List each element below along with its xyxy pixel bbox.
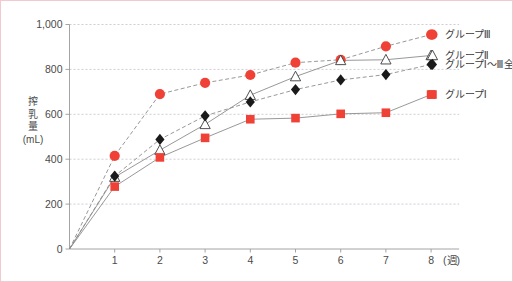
y-axis-title-char-1: 乳 xyxy=(28,108,38,120)
x-axis-unit-label: (週) xyxy=(443,254,460,266)
legend-marker-2 xyxy=(428,59,437,70)
x-tick-label-3: 3 xyxy=(202,254,208,266)
data-point-s2-w5 xyxy=(291,84,300,95)
data-point-s2-w6 xyxy=(336,74,345,85)
y-tick-label-400: 400 xyxy=(45,153,63,165)
x-tick-label-4: 4 xyxy=(247,254,253,266)
data-point-s3-w6 xyxy=(336,110,345,119)
data-point-s0-w1 xyxy=(110,151,120,161)
x-tick-label-8: 8 xyxy=(428,254,434,266)
series-markers-group xyxy=(110,29,437,190)
data-point-s2-w7 xyxy=(381,69,390,80)
legend-label-2: グループⅠ～Ⅲ全体 xyxy=(445,58,512,70)
data-point-s0-w3 xyxy=(200,78,210,88)
series-line-1 xyxy=(70,55,432,249)
y-tick-label-600: 600 xyxy=(45,108,63,120)
x-axis-unit-text: (週) xyxy=(443,254,460,266)
series-line-0 xyxy=(70,35,432,249)
data-point-s1-w2 xyxy=(155,145,165,155)
x-tick-label-2: 2 xyxy=(157,254,163,266)
gridlines-group xyxy=(70,25,460,205)
data-point-s2-w2 xyxy=(155,134,164,145)
data-point-s3-w1 xyxy=(110,182,119,191)
y-tick-label-800: 800 xyxy=(45,63,63,75)
data-point-s3-w3 xyxy=(201,134,210,143)
data-point-s3-w5 xyxy=(291,114,300,123)
x-axis-tick-labels: 12345678 xyxy=(112,254,434,266)
legend: グループⅢグループⅡグループⅠ～Ⅲ全体グループⅠ xyxy=(427,28,512,100)
data-point-s3-w7 xyxy=(382,108,391,117)
y-axis-title-char-0: 搾 xyxy=(28,95,38,107)
milk-yield-line-chart: 02004006008001,000 12345678 搾乳量(mL) (週) … xyxy=(1,1,512,281)
data-point-s0-w4 xyxy=(245,70,255,80)
data-point-s1-w5 xyxy=(290,71,300,81)
x-tick-label-5: 5 xyxy=(293,254,299,266)
x-tick-label-6: 6 xyxy=(338,254,344,266)
series-lines-group xyxy=(70,35,432,249)
data-point-s0-w7 xyxy=(381,41,391,51)
data-point-s0-w2 xyxy=(155,89,165,99)
x-tick-label-7: 7 xyxy=(383,254,389,266)
y-axis-title-char-2: 量 xyxy=(28,121,38,132)
data-point-s2-w3 xyxy=(201,110,210,121)
y-tick-label-1000: 1,000 xyxy=(36,18,62,30)
data-point-s3-w2 xyxy=(156,153,165,162)
x-tick-label-1: 1 xyxy=(112,254,118,266)
legend-label-0: グループⅢ xyxy=(445,28,491,40)
data-point-s3-w4 xyxy=(246,115,255,124)
data-point-s0-w5 xyxy=(290,58,300,68)
legend-marker-0 xyxy=(427,29,437,39)
y-axis-origin-label: 0 xyxy=(57,243,63,255)
y-tick-label-200: 200 xyxy=(45,198,63,210)
chart-figure: 02004006008001,000 12345678 搾乳量(mL) (週) … xyxy=(0,0,513,282)
y-axis-title: 搾乳量(mL) xyxy=(23,95,44,145)
y-axis-title-char-3: (mL) xyxy=(23,134,44,145)
legend-label-3: グループⅠ xyxy=(445,88,487,100)
legend-marker-3 xyxy=(428,90,437,99)
